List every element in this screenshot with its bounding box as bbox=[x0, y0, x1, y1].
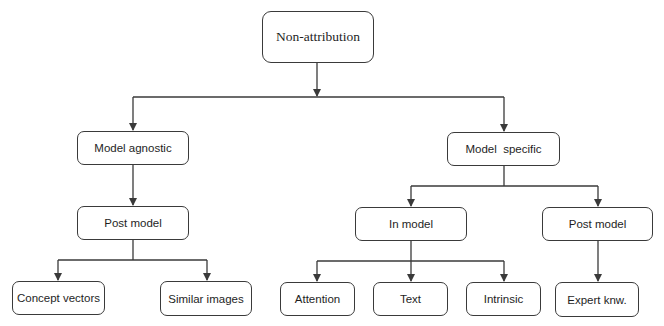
node-label: Model agnostic bbox=[94, 142, 171, 154]
node-label: In model bbox=[389, 218, 433, 230]
node-post-model-specific: Post model bbox=[542, 207, 653, 241]
node-intrinsic: Intrinsic bbox=[466, 282, 541, 316]
node-label: Similar images bbox=[168, 293, 243, 305]
node-label: Expert knw. bbox=[567, 294, 626, 306]
node-model-specific: Model specific bbox=[447, 132, 560, 166]
node-attention: Attention bbox=[280, 282, 355, 316]
node-similar-images: Similar images bbox=[160, 281, 252, 316]
node-label: Text bbox=[400, 293, 421, 305]
node-label: Non-attribution bbox=[276, 29, 360, 45]
node-concept-vectors: Concept vectors bbox=[12, 281, 105, 315]
node-label: Intrinsic bbox=[484, 293, 524, 305]
node-label: Post model bbox=[104, 217, 162, 229]
node-model-agnostic: Model agnostic bbox=[77, 131, 189, 165]
node-label: Post model bbox=[569, 218, 627, 230]
node-non-attribution: Non-attribution bbox=[262, 11, 374, 63]
node-expert-knw: Expert knw. bbox=[555, 282, 639, 317]
taxonomy-diagram: Non-attribution Model agnostic Model spe… bbox=[0, 0, 664, 326]
node-text: Text bbox=[373, 282, 448, 316]
node-label: Model specific bbox=[465, 143, 541, 155]
node-label: Attention bbox=[295, 293, 340, 305]
node-label: Concept vectors bbox=[17, 292, 100, 304]
node-in-model: In model bbox=[355, 207, 467, 241]
node-post-model-agnostic: Post model bbox=[77, 206, 189, 240]
